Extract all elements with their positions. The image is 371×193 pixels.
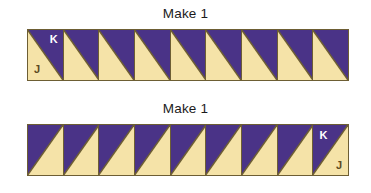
triangle-block — [278, 125, 314, 175]
triangle-block — [135, 125, 171, 175]
unit-strip-1: KJ — [27, 29, 349, 81]
triangle-block — [135, 30, 171, 80]
triangle-block: KJ — [313, 125, 348, 175]
half-square-triangle — [28, 125, 64, 175]
half-square-triangle — [99, 30, 135, 80]
triangle-block — [242, 30, 278, 80]
triangle-block — [64, 125, 100, 175]
triangle-block — [242, 125, 278, 175]
triangle-block: KJ — [28, 30, 64, 80]
triangle-block — [99, 30, 135, 80]
triangle-block — [278, 30, 314, 80]
half-square-triangle — [206, 125, 242, 175]
triangle-block — [206, 125, 242, 175]
half-square-triangle — [278, 125, 314, 175]
unit-group-1-title: Make 1 — [0, 6, 371, 22]
fabric-label-k: K — [319, 130, 327, 141]
triangle-block — [206, 30, 242, 80]
half-square-triangle — [64, 30, 100, 80]
half-square-triangle — [171, 125, 207, 175]
half-square-triangle — [171, 30, 207, 80]
half-square-triangle — [135, 30, 171, 80]
half-square-triangle — [206, 30, 242, 80]
triangle-block — [171, 125, 207, 175]
half-square-triangle — [242, 125, 278, 175]
fabric-label-k: K — [50, 34, 58, 45]
unit-strip-2: KJ — [27, 124, 349, 176]
half-square-triangle — [278, 30, 314, 80]
triangle-block — [171, 30, 207, 80]
half-square-triangle — [313, 30, 348, 80]
triangle-block — [64, 30, 100, 80]
triangle-block — [313, 30, 348, 80]
half-square-triangle — [242, 30, 278, 80]
triangle-block — [28, 125, 64, 175]
quilt-unit-diagram: Make 1 KJ Make 1 KJ — [0, 0, 371, 193]
unit-group-2-title: Make 1 — [0, 101, 371, 117]
fabric-label-j: J — [34, 64, 40, 75]
half-square-triangle — [99, 125, 135, 175]
half-square-triangle — [64, 125, 100, 175]
fabric-label-j: J — [336, 160, 342, 171]
triangle-block — [99, 125, 135, 175]
half-square-triangle — [135, 125, 171, 175]
